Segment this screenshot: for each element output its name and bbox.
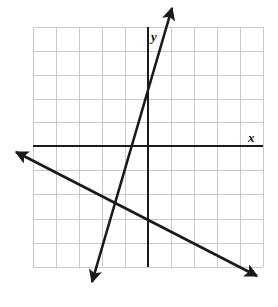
graph-figure: x y bbox=[0, 0, 278, 307]
coordinate-plane-svg bbox=[0, 0, 278, 307]
axes bbox=[33, 27, 263, 267]
x-axis-label: x bbox=[248, 131, 255, 144]
shallow-line bbox=[16, 152, 257, 276]
y-axis-label: y bbox=[151, 30, 157, 43]
